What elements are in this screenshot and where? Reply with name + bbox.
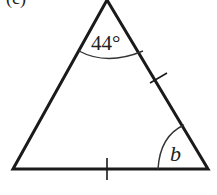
figure-part-label: (c) bbox=[6, 0, 26, 9]
base-angle-label: b bbox=[170, 141, 181, 166]
apex-angle-label: 44° bbox=[91, 31, 120, 55]
triangle-diagram: (c) 44° b bbox=[0, 0, 217, 195]
